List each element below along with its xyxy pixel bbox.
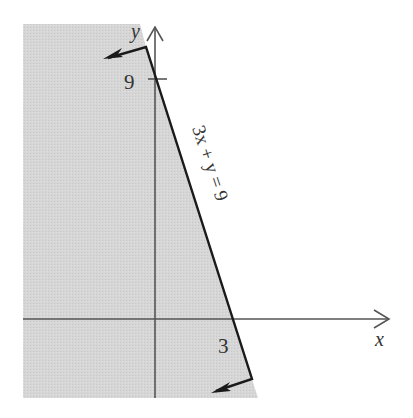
x-intercept-label: 3 (218, 334, 229, 358)
y-intercept-label: 9 (124, 70, 135, 94)
graph-canvas: y x 9 3 3x + y = 9 (0, 0, 413, 418)
y-axis-label: y (129, 20, 140, 43)
line-equation-label: 3x + y = 9 (188, 123, 233, 204)
x-axis-label: x (374, 328, 384, 350)
